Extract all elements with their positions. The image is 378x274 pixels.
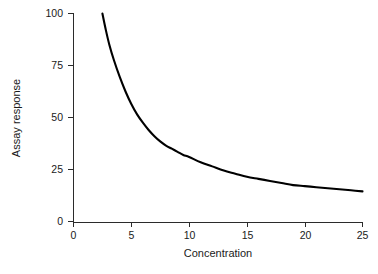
- figure-container: 100 75 50 25 0 0 5 10 15 20 25 Concentra…: [0, 0, 378, 274]
- y-tick-label-0: 0: [57, 215, 63, 227]
- y-tick-label-50: 50: [51, 111, 63, 123]
- x-axis-title: Concentration: [184, 247, 253, 259]
- x-tick-label-15: 15: [242, 229, 254, 241]
- x-tick-label-0: 0: [71, 229, 77, 241]
- y-tick-label-75: 75: [51, 59, 63, 71]
- y-axis-title: Assay response: [10, 79, 22, 157]
- caption-strip: [0, 268, 378, 274]
- x-tick-label-10: 10: [184, 229, 196, 241]
- assay-response-line-chart: 100 75 50 25 0 0 5 10 15 20 25 Concentra…: [0, 0, 378, 274]
- x-tick-label-20: 20: [300, 229, 312, 241]
- x-tick-label-5: 5: [129, 229, 135, 241]
- y-tick-label-100: 100: [45, 7, 63, 19]
- x-tick-label-25: 25: [357, 229, 369, 241]
- y-tick-label-25: 25: [51, 163, 63, 175]
